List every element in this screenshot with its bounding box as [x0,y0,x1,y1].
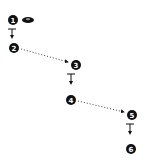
connector-t-arrow-1-2 [8,29,16,39]
step-3-label: 3 [74,62,79,70]
connector-dotted-arrow-4-5 [78,101,124,112]
step-2-label: 2 [12,45,17,53]
step-5-label: 5 [130,112,135,120]
step-6-label: 6 [129,146,134,154]
step-4-marker: 4 [66,95,76,105]
step-1-marker: 1 [8,15,18,25]
step-6-marker: 6 [126,144,136,154]
step-flow-diagram: 1 2 3 4 5 [0,0,149,168]
connector-dotted-arrow-2-3 [21,49,68,62]
step-1-label: 1 [11,17,16,25]
eye-icon [22,17,34,23]
step-2-marker: 2 [9,43,19,53]
connector-t-arrow-3-4 [67,74,75,85]
connector-t-arrow-5-6 [126,124,134,135]
step-3-marker: 3 [71,60,81,70]
step-4-label: 4 [69,97,74,105]
step-5-marker: 5 [127,110,137,120]
